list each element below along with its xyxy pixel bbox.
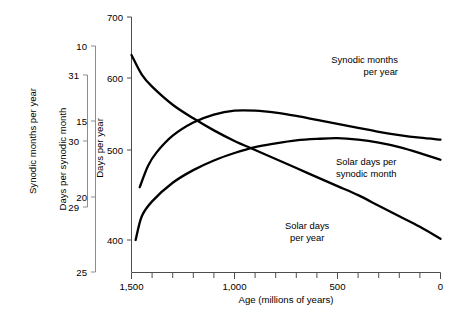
axis-tick-label-synodic-29: 29 — [68, 202, 79, 213]
axis-tick-label-age-0: 0 — [438, 281, 443, 292]
axis-tick-label-dpy-700: 700 — [107, 12, 123, 23]
axis-title-days-per-synodic-month: Days per synodic month — [57, 108, 68, 211]
curve-label-synodic-months-line2: per year — [364, 66, 398, 77]
axis-title-synodic-months-per-year: Synodic months per year — [27, 87, 38, 194]
curve-label-solar-days-year-line2: per year — [290, 232, 324, 243]
curve-label-synodic-months-line1: Synodic months — [331, 54, 398, 65]
curve-label-solar-days-per-synodic-month: Solar days per synodic month — [336, 156, 396, 179]
curve-label-solar-days-synodic-line1: Solar days per — [336, 156, 396, 167]
axis-tick-label-age-500: 500 — [329, 281, 345, 292]
curve-label-solar-days-year-line1: Solar days — [285, 220, 330, 231]
axis-title-age: Age (millions of years) — [239, 294, 334, 305]
axis-tick-label-dpy-600: 600 — [107, 73, 123, 84]
chart-svg: 31 30 29 Synodic months per year 10 15 2… — [0, 0, 461, 319]
figure-container: 31 30 29 Synodic months per year 10 15 2… — [0, 0, 461, 319]
axis-days-per-year: 700 600 500 400 Days per year — [94, 12, 132, 273]
axis-tick-label-age-1000: 1,000 — [222, 281, 246, 292]
curve-label-solar-days-per-year: Solar days per year — [285, 220, 330, 243]
axis-tick-label-dpsm-10: 10 — [76, 41, 87, 52]
curve-label-synodic-months-per-year: Synodic months per year — [331, 54, 398, 77]
axis-age: 1,500 1,000 500 0 Age (millions of years… — [119, 273, 443, 306]
axis-tick-label-dpy-400: 400 — [107, 235, 123, 246]
axis-tick-label-age-1500: 1,500 — [119, 281, 143, 292]
axis-tick-label-dpy-500: 500 — [107, 145, 123, 156]
axis-tick-label-dpsm-20: 20 — [76, 192, 87, 203]
curve-label-solar-days-synodic-line2: synodic month — [336, 168, 396, 179]
axis-tick-label-synodic-30: 30 — [68, 136, 79, 147]
axis-tick-label-dpsm-15: 15 — [76, 116, 87, 127]
series-group — [132, 55, 441, 240]
axis-title-days-per-year: Days per year — [94, 117, 105, 178]
axis-tick-label-synodic-31: 31 — [68, 70, 79, 81]
axis-tick-label-dpsm-25: 25 — [76, 267, 87, 278]
